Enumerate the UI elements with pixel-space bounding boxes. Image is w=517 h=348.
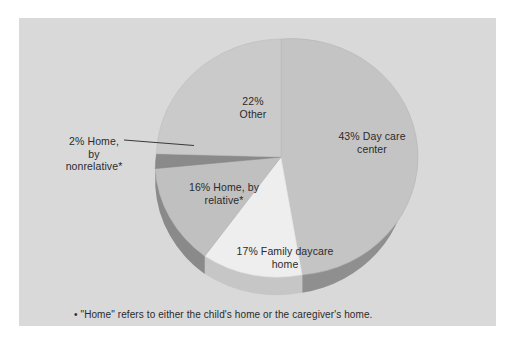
slice-label-home-relative-line1: 16% Home, by (150, 181, 298, 194)
slice-label-other: 22% Other (205, 95, 301, 121)
slice-label-family-daycare-line2: home (205, 258, 365, 271)
slice-label-other-line2: Other (205, 108, 301, 121)
slice-label-home-nonrelative-line2: by (39, 148, 149, 161)
slice-label-family-daycare: 17% Family daycare home (205, 245, 365, 271)
slice-label-home-relative: 16% Home, by relative* (150, 181, 298, 207)
slice-label-daycare-center-line2: center (306, 143, 438, 156)
slice-label-other-line1: 22% (205, 95, 301, 108)
slice-label-daycare-center-line1: 43% Day care (306, 130, 438, 143)
chart-panel: 43% Day care center 22% Other 16% Home, … (19, 18, 496, 326)
chart-footnote: • "Home" refers to either the child's ho… (74, 308, 474, 321)
slice-label-daycare-center: 43% Day care center (306, 130, 438, 156)
slice-daycare-center (281, 39, 418, 275)
pie-chart-figure: 43% Day care center 22% Other 16% Home, … (0, 0, 517, 348)
slice-label-family-daycare-line1: 17% Family daycare (205, 245, 365, 258)
slice-label-home-nonrelative: 2% Home, by nonrelative* (39, 135, 149, 173)
slice-label-home-nonrelative-line3: nonrelative* (39, 160, 149, 173)
slice-label-home-nonrelative-line1: 2% Home, (39, 135, 149, 148)
pie-top-face (155, 39, 418, 278)
slice-label-home-relative-line2: relative* (150, 194, 298, 207)
